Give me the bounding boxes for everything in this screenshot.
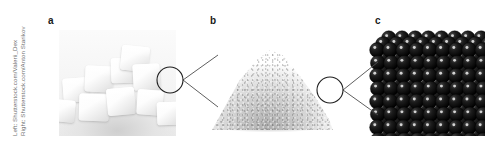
lattice-sphere-highlight xyxy=(440,110,443,113)
panel-label-b: b xyxy=(210,16,216,26)
photo-credit-block: Left: Shutterstock.com/Valerii_Dex Right… xyxy=(0,0,24,145)
lattice-sphere-highlight xyxy=(453,85,456,88)
lattice-sphere xyxy=(409,68,424,83)
lattice-sphere-highlight xyxy=(400,110,403,113)
lattice-sphere-highlight xyxy=(387,110,390,113)
lattice-sphere-highlight xyxy=(413,123,416,126)
lattice-sphere xyxy=(462,120,477,135)
lattice-sphere xyxy=(397,107,412,122)
lattice-sphere xyxy=(463,55,478,70)
lattice-sphere xyxy=(370,55,385,70)
lattice-sphere-highlight xyxy=(413,46,416,49)
lattice-sphere-highlight xyxy=(479,72,482,75)
lattice-sphere xyxy=(409,94,424,109)
lattice-sphere xyxy=(409,120,424,135)
lattice-sphere-highlight xyxy=(479,46,482,49)
lattice-sphere-highlight xyxy=(386,46,389,49)
lattice-sphere-highlight xyxy=(464,34,467,37)
lattice-sphere-highlight xyxy=(479,59,482,62)
lattice-sphere xyxy=(383,43,398,58)
sugar-cube xyxy=(106,87,136,116)
lattice-sphere-highlight xyxy=(413,98,416,101)
lattice-sphere-highlight xyxy=(452,46,455,49)
panel-b-sugar-pile xyxy=(201,30,341,136)
lattice-sphere-highlight xyxy=(438,34,441,37)
lattice-sphere xyxy=(435,120,450,135)
lattice-sphere xyxy=(370,43,385,58)
lattice-sphere xyxy=(397,55,412,70)
sugar-cube xyxy=(79,93,110,121)
figure-root: Left: Shutterstock.com/Valerii_Dex Right… xyxy=(0,0,491,153)
lattice-sphere xyxy=(422,94,437,109)
lattice-sphere-highlight xyxy=(466,59,469,62)
lattice-sphere-highlight xyxy=(411,34,414,37)
sugar-cube xyxy=(157,102,176,126)
panel-c-crystal-lattice xyxy=(363,30,485,136)
lattice-sphere-highlight xyxy=(373,46,376,49)
lattice-sphere-highlight xyxy=(479,110,482,113)
lattice-sphere xyxy=(370,94,385,109)
lattice-sphere xyxy=(449,120,464,135)
lattice-sphere-highlight xyxy=(439,98,442,101)
lattice-sphere-highlight xyxy=(406,40,409,43)
lattice-sphere xyxy=(449,43,464,58)
lattice-sphere-highlight xyxy=(466,123,469,126)
lattice-sphere xyxy=(410,55,425,70)
lattice-sphere xyxy=(462,43,477,58)
lattice-sphere-highlight xyxy=(386,98,389,101)
lattice-sphere-highlight xyxy=(392,40,395,43)
lattice-sphere xyxy=(423,107,438,122)
lattice-sphere xyxy=(449,55,464,70)
crystal-lattice-illustration xyxy=(363,30,485,136)
lattice-sphere-highlight xyxy=(425,34,428,37)
lattice-sphere-highlight xyxy=(466,46,469,49)
lattice-sphere xyxy=(397,81,412,96)
lattice-sphere-highlight xyxy=(400,123,403,126)
lattice-sphere-highlight xyxy=(453,59,456,62)
lattice-sphere xyxy=(436,81,451,96)
lattice-sphere xyxy=(396,68,411,83)
lattice-sphere-highlight xyxy=(426,72,429,75)
lattice-sphere xyxy=(435,94,450,109)
lattice-sphere-highlight xyxy=(440,59,443,62)
panel-label-c: c xyxy=(375,16,381,26)
lattice-sphere-highlight xyxy=(466,72,469,75)
lattice-sphere-highlight xyxy=(426,98,429,101)
lattice-sphere-highlight xyxy=(439,46,442,49)
lattice-sphere-highlight xyxy=(458,40,461,43)
lattice-sphere xyxy=(384,55,399,70)
lattice-sphere-highlight xyxy=(414,110,417,113)
lattice-sphere xyxy=(436,107,451,122)
lattice-sphere xyxy=(409,43,424,58)
lattice-sphere-highlight xyxy=(445,40,448,43)
lattice-sphere-highlight xyxy=(379,40,382,43)
lattice-sphere xyxy=(462,94,477,109)
lattice-sphere-highlight xyxy=(479,123,482,126)
lattice-sphere-highlight xyxy=(374,59,377,62)
lattice-sphere xyxy=(449,81,464,96)
lattice-sphere-highlight xyxy=(440,85,443,88)
lattice-sphere-highlight xyxy=(398,34,401,37)
lattice-sphere-highlight xyxy=(466,98,469,101)
lattice-sphere-highlight xyxy=(479,98,482,101)
panel-a-sugar-cubes xyxy=(59,30,176,136)
lattice-sphere xyxy=(396,120,411,135)
lattice-sphere-highlight xyxy=(439,123,442,126)
lattice-sphere xyxy=(384,81,399,96)
lattice-sphere-highlight xyxy=(427,110,430,113)
lattice-sphere-highlight xyxy=(373,72,376,75)
lattice-sphere-highlight xyxy=(452,98,455,101)
lattice-sphere-highlight xyxy=(414,85,417,88)
sugar-cube xyxy=(59,99,76,123)
lattice-sphere xyxy=(422,43,437,58)
lattice-sphere-highlight xyxy=(426,123,429,126)
lattice-sphere xyxy=(410,107,425,122)
lattice-sphere xyxy=(435,68,450,83)
lattice-sphere-highlight xyxy=(432,40,435,43)
lattice-sphere-highlight xyxy=(385,34,388,37)
lattice-sphere-highlight xyxy=(374,110,377,113)
lattice-sphere-highlight xyxy=(426,46,429,49)
photo-credit-left: Left: Shutterstock.com/Valerii_Dex xyxy=(11,40,18,136)
lattice-sphere xyxy=(422,120,437,135)
lattice-sphere xyxy=(383,94,398,109)
